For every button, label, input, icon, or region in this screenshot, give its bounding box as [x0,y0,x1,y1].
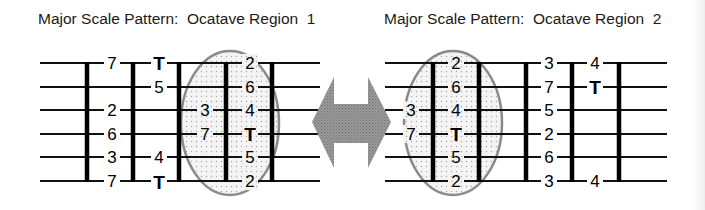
highlight-ellipse-1 [181,51,279,195]
note: 6 [107,125,116,144]
note: 4 [154,148,163,167]
note: 7 [200,125,209,144]
note: 7 [544,78,553,97]
tonic-note: T [244,124,256,145]
d1-col-1: 7 2 6 3 7 [104,54,120,191]
note: 7 [107,172,116,191]
note: 3 [200,101,209,120]
note: 2 [451,54,460,73]
tonic-note: T [450,124,462,145]
note: 2 [107,101,116,120]
tonic-note: T [589,77,601,98]
fretboard-diagrams: 7 2 6 3 7 T 5 4 T 3 7 2 6 4 T 5 2 3 7 [0,0,705,210]
note: 3 [544,172,553,191]
note: 7 [406,125,415,144]
note: 3 [107,148,116,167]
page-edge [691,0,705,210]
d1-col-2: T 5 4 T [151,53,167,193]
note: 4 [590,54,599,73]
tonic-note: T [153,53,165,74]
note: 4 [590,172,599,191]
note: 5 [451,148,460,167]
note: 2 [245,172,254,191]
d2-col-4: 4 T 4 [587,54,603,191]
note: 2 [544,125,553,144]
note: 4 [245,101,254,120]
note: 6 [245,78,254,97]
note: 3 [544,54,553,73]
note: 6 [451,78,460,97]
note: 7 [107,54,116,73]
note: 5 [544,101,553,120]
d2-col-3: 3 7 5 2 6 3 [541,54,557,191]
note: 2 [245,54,254,73]
note: 2 [451,172,460,191]
note: 6 [544,148,553,167]
note: 4 [451,101,460,120]
double-arrow-icon [312,77,391,168]
note: 3 [406,101,415,120]
tonic-note: T [153,172,165,193]
note: 5 [245,148,254,167]
note: 5 [154,78,163,97]
